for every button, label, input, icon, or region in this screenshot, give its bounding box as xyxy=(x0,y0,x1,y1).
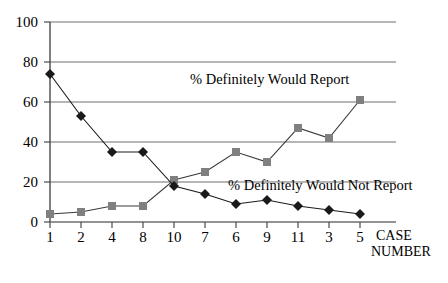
data-point xyxy=(263,158,271,166)
data-point xyxy=(77,208,85,216)
data-point xyxy=(325,134,333,142)
series-label-would-report: % Definitely Would Report xyxy=(190,72,349,87)
xtick-label-3: 8 xyxy=(129,230,157,245)
x-axis-title-line2: NUMBER xyxy=(371,245,431,260)
xtick-label-10: 5 xyxy=(346,230,374,245)
data-point xyxy=(294,124,302,132)
data-point xyxy=(45,69,55,79)
data-point xyxy=(200,189,210,199)
xtick-label-0: 1 xyxy=(36,230,64,245)
data-point xyxy=(139,202,147,210)
series-would-not-report xyxy=(45,69,365,219)
xtick-label-5: 7 xyxy=(191,230,219,245)
series-label-would-not-report: % Definitely Would Not Report xyxy=(228,178,413,193)
data-point xyxy=(201,168,209,176)
xtick-label-4: 10 xyxy=(160,230,188,245)
xtick-label-7: 9 xyxy=(253,230,281,245)
data-point xyxy=(262,195,272,205)
data-point xyxy=(293,201,303,211)
xtick-label-9: 3 xyxy=(315,230,343,245)
xtick-label-6: 6 xyxy=(222,230,250,245)
data-point xyxy=(232,148,240,156)
data-point xyxy=(355,209,365,219)
y-axis-ticks xyxy=(44,22,50,222)
x-axis-ticks xyxy=(50,222,360,228)
data-point xyxy=(324,205,334,215)
data-point xyxy=(356,96,364,104)
xtick-label-8: 11 xyxy=(284,230,312,245)
xtick-label-1: 2 xyxy=(67,230,95,245)
data-point xyxy=(231,199,241,209)
xtick-label-2: 4 xyxy=(98,230,126,245)
data-point xyxy=(46,210,54,218)
data-point xyxy=(108,202,116,210)
gridlines xyxy=(50,22,396,182)
x-axis-title-line1: CASE xyxy=(376,229,412,244)
chart-container: 100 80 60 40 20 0 xyxy=(0,0,448,283)
series-would-report xyxy=(46,96,364,218)
